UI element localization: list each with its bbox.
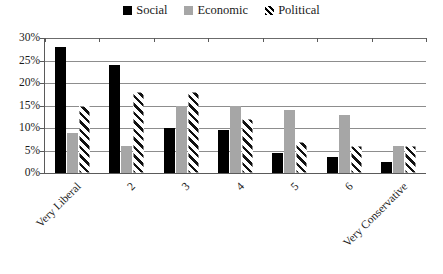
bar-social	[272, 153, 283, 173]
bar-political	[188, 92, 199, 173]
bar-group	[45, 38, 99, 173]
y-axis-tick-label: 5%	[4, 145, 40, 157]
x-axis-tickmark	[317, 38, 318, 42]
legend-swatch-social-icon	[123, 6, 132, 15]
legend-item-social: Social	[123, 4, 167, 17]
bar-political	[133, 92, 144, 173]
legend-swatch-economic-icon	[184, 6, 193, 15]
bar-political	[296, 142, 307, 174]
x-axis-tickmark	[154, 38, 155, 42]
x-axis-label: 2	[35, 181, 138, 274]
bar-political	[242, 119, 253, 173]
bar-economic	[230, 106, 241, 174]
bar-group	[208, 38, 262, 173]
legend-label-political: Political	[278, 4, 320, 17]
bar-economic	[284, 110, 295, 173]
legend-item-economic: Economic	[184, 4, 248, 17]
bar-social	[381, 162, 392, 173]
x-axis-tickmark	[372, 38, 373, 42]
y-axis-tick-label: 30%	[4, 32, 40, 44]
y-axis-tick-label: 15%	[4, 100, 40, 112]
legend-item-political: Political	[265, 4, 320, 17]
bar-economic	[393, 146, 404, 173]
legend-swatch-political-icon	[265, 6, 274, 15]
chart-legend: Social Economic Political	[0, 2, 443, 18]
bar-group	[372, 38, 426, 173]
legend-label-economic: Economic	[197, 4, 248, 17]
y-axis-tick-label: 0%	[4, 167, 40, 179]
bar-group	[263, 38, 317, 173]
bar-social	[327, 157, 338, 173]
bar-social	[164, 128, 175, 173]
bar-group	[99, 38, 153, 173]
bar-political	[351, 146, 362, 173]
bar-social	[55, 47, 66, 173]
plot-area	[44, 38, 426, 174]
x-axis-tickmark	[263, 38, 264, 42]
bar-political	[405, 146, 416, 173]
bar-group	[154, 38, 208, 173]
x-axis-tickmark	[45, 38, 46, 42]
y-axis-tick-label: 20%	[4, 77, 40, 89]
x-axis-tickmark	[99, 38, 100, 42]
x-axis-tickmark	[426, 38, 427, 42]
bar-economic	[339, 115, 350, 174]
legend-label-social: Social	[136, 4, 167, 17]
bar-group	[317, 38, 371, 173]
bar-economic	[67, 133, 78, 174]
bar-political	[79, 106, 90, 174]
y-axis-tick-label: 10%	[4, 122, 40, 134]
bar-social	[109, 65, 120, 173]
bar-social	[218, 130, 229, 173]
bar-economic	[121, 146, 132, 173]
x-axis-tickmark	[208, 38, 209, 42]
y-axis-tick-label: 25%	[4, 55, 40, 67]
bar-economic	[176, 106, 187, 174]
